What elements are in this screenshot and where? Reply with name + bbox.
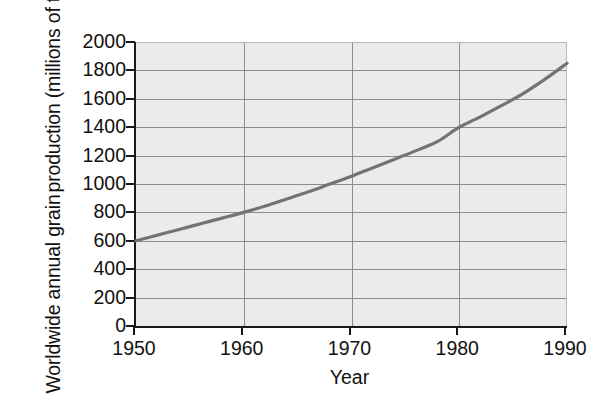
y-axis-tick-label: 0 — [115, 316, 126, 336]
y-axis-tick-label: 600 — [93, 231, 126, 251]
x-axis-tick-mark — [349, 326, 351, 335]
x-axis-tick-mark — [133, 326, 135, 335]
x-axis-tick-label: 1990 — [543, 337, 586, 360]
x-axis-title: Year — [134, 366, 565, 389]
y-axis-tick-label: 200 — [93, 288, 126, 308]
x-axis-tick-labels: 19501960197019801990 — [134, 337, 565, 363]
x-axis-tick-label: 1960 — [220, 337, 263, 360]
y-axis-tick-label: 1600 — [83, 89, 126, 109]
y-axis-tick-label: 1000 — [83, 174, 126, 194]
x-axis-tick-mark — [564, 326, 566, 335]
y-axis-tick-label: 800 — [93, 203, 126, 223]
x-axis-tick-label: 1970 — [328, 337, 371, 360]
y-axis-tick-labels: 0200400600800100012001400160018002000 — [60, 42, 126, 326]
x-axis-tick-mark — [456, 326, 458, 335]
y-axis-tick-label: 1800 — [83, 61, 126, 81]
plot-area — [134, 42, 567, 328]
x-axis-tick-mark — [241, 326, 243, 335]
series-line-grain-production — [136, 63, 567, 241]
x-axis-tick-label: 1950 — [112, 337, 155, 360]
series-layer — [136, 42, 567, 326]
x-axis-tick-marks — [134, 326, 565, 335]
y-axis-tick-label: 1400 — [83, 117, 126, 137]
chart-figure: Worldwide annual grain production (milli… — [0, 0, 601, 416]
caption-sliver — [30, 404, 550, 416]
y-axis-tick-label: 2000 — [83, 32, 126, 52]
x-axis-tick-label: 1980 — [436, 337, 479, 360]
y-axis-tick-label: 400 — [93, 259, 126, 279]
y-axis-tick-label: 1200 — [83, 146, 126, 166]
